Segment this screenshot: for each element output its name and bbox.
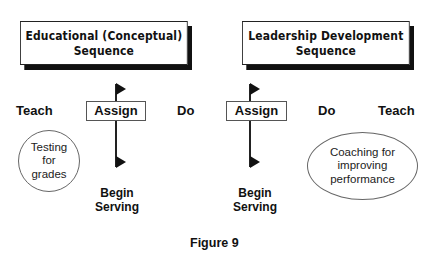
step-assign-right: Assign bbox=[226, 101, 287, 121]
begin-serving-right-line2: Serving bbox=[229, 200, 281, 214]
left-top-flag-icon bbox=[116, 83, 126, 95]
right-top-flag-icon bbox=[250, 83, 260, 95]
coaching-bubble: Coaching for improving performance bbox=[307, 132, 418, 200]
begin-serving-left-line2: Serving bbox=[92, 200, 142, 214]
begin-serving-right-line1: Begin bbox=[229, 186, 281, 200]
testing-for-grades-bubble: Testing for grades bbox=[18, 130, 80, 192]
begin-serving-right: Begin Serving bbox=[229, 186, 281, 214]
step-assign-left: Assign bbox=[86, 101, 146, 121]
step-do-right: Do bbox=[318, 103, 335, 118]
bubble-right-line2: improving bbox=[338, 159, 388, 173]
step-assign-left-label: Assign bbox=[94, 103, 137, 118]
bubble-left-line2: for bbox=[42, 154, 55, 168]
educational-sequence-title-box: Educational (Conceptual) Sequence bbox=[20, 21, 188, 65]
right-timeline-line bbox=[249, 84, 251, 167]
educational-title-line2: Sequence bbox=[21, 43, 187, 58]
step-assign-right-label: Assign bbox=[235, 103, 278, 118]
educational-title-line1: Educational (Conceptual) bbox=[21, 28, 187, 43]
bubble-left-line3: grades bbox=[31, 168, 66, 182]
step-do-left: Do bbox=[177, 103, 194, 118]
leadership-sequence-title-box: Leadership Development Sequence bbox=[242, 21, 410, 65]
begin-serving-left: Begin Serving bbox=[92, 186, 142, 214]
left-bottom-flag-icon bbox=[116, 156, 126, 168]
right-bottom-flag-icon bbox=[250, 156, 260, 168]
step-teach-right: Teach bbox=[378, 103, 415, 118]
left-timeline-line bbox=[115, 84, 117, 167]
step-teach-left: Teach bbox=[16, 103, 53, 118]
begin-serving-left-line1: Begin bbox=[92, 186, 142, 200]
leadership-title-line1: Leadership Development bbox=[243, 28, 409, 43]
leadership-title-line2: Sequence bbox=[243, 43, 409, 58]
bubble-left-line1: Testing bbox=[31, 141, 67, 155]
bubble-right-line1: Coaching for bbox=[330, 146, 395, 160]
figure-caption: Figure 9 bbox=[190, 236, 239, 250]
bubble-right-line3: performance bbox=[330, 173, 395, 187]
